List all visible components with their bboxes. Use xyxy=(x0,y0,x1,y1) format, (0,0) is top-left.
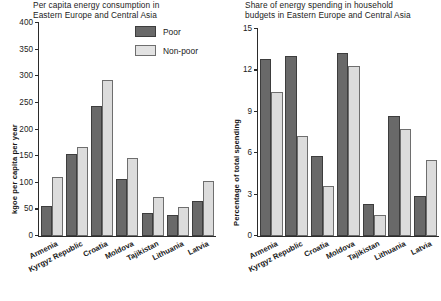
bar-non-poor xyxy=(127,158,138,236)
bar-non-poor xyxy=(203,181,214,235)
legend: Poor Non-poor xyxy=(135,26,198,64)
legend-label-poor: Poor xyxy=(163,27,181,37)
x-axis-labels: ArmeniaKyrgyz RepublicCroatiaMoldovaTaji… xyxy=(257,237,439,297)
bar-non-poor xyxy=(153,197,164,235)
bar-non-poor xyxy=(178,207,189,235)
y-tick-label: 200 xyxy=(19,124,33,133)
bar-group xyxy=(337,28,360,236)
y-tick-label: 300 xyxy=(19,71,33,80)
bar-non-poor xyxy=(374,215,386,236)
bar-group xyxy=(363,28,386,236)
plot-area: 03691215 ArmeniaKyrgyz RepublicCroatiaMo… xyxy=(257,28,439,237)
y-axis-title: kgoe per capita per year xyxy=(10,124,19,214)
legend-item-poor: Poor xyxy=(135,26,198,37)
y-tick-label: 0 xyxy=(28,231,33,240)
bar-non-poor xyxy=(271,92,283,236)
bar-non-poor xyxy=(323,186,335,236)
y-tick-label: 350 xyxy=(19,44,33,53)
legend-swatch-nonpoor-icon xyxy=(135,45,156,56)
y-tick xyxy=(35,102,39,103)
x-axis-label: Latvia xyxy=(409,239,433,257)
x-axis-label: Latvia xyxy=(187,239,211,257)
bar-group xyxy=(388,28,411,236)
y-tick-label: 9 xyxy=(247,106,252,115)
bar-poor xyxy=(414,196,426,236)
bar-poor xyxy=(337,53,349,235)
bar-non-poor xyxy=(400,129,412,235)
y-tick-label: 400 xyxy=(19,18,33,27)
y-tick-label: 50 xyxy=(24,204,33,213)
y-tick xyxy=(254,69,258,70)
chart-panel-energy-spending-share: Share of energy spending in household bu… xyxy=(221,0,441,301)
bar-non-poor xyxy=(348,66,360,236)
y-tick xyxy=(35,235,39,236)
bar-poor xyxy=(311,156,323,236)
bar-group xyxy=(91,22,113,236)
bar-poor xyxy=(66,154,77,236)
bar-series-group xyxy=(258,28,439,236)
chart-title: Share of energy spending in household bu… xyxy=(245,1,441,20)
y-tick xyxy=(35,75,39,76)
y-tick xyxy=(254,235,258,236)
bar-group xyxy=(285,28,308,236)
bar-poor xyxy=(41,206,52,236)
bar-non-poor xyxy=(52,177,63,236)
bar-poor xyxy=(285,56,297,235)
legend-label-nonpoor: Non-poor xyxy=(163,46,198,56)
bar-poor xyxy=(260,59,272,236)
y-tick xyxy=(35,155,39,156)
x-axis-labels: ArmeniaKyrgyz RepublicCroatiaMoldovaTaji… xyxy=(38,237,216,297)
legend-item-nonpoor: Non-poor xyxy=(135,45,198,56)
y-tick xyxy=(35,22,39,23)
bar-non-poor xyxy=(426,160,438,236)
y-tick-label: 100 xyxy=(19,177,33,186)
bar-group xyxy=(414,28,437,236)
y-tick xyxy=(254,194,258,195)
bar-non-poor xyxy=(77,147,88,236)
bar-poor xyxy=(116,179,127,236)
y-tick-label: 12 xyxy=(243,65,252,74)
bar-group xyxy=(311,28,334,236)
y-tick-label: 250 xyxy=(19,97,33,106)
bar-poor xyxy=(192,201,203,236)
bar-poor xyxy=(388,116,400,236)
y-tick xyxy=(35,129,39,130)
bar-poor xyxy=(142,213,153,235)
y-tick-label: 3 xyxy=(247,189,252,198)
figure-root: Per capita energy consumption in Eastern… xyxy=(0,0,441,301)
bar-group xyxy=(41,22,63,236)
bar-poor xyxy=(91,106,102,235)
y-axis-title: Percentage of total spending xyxy=(232,119,241,226)
chart-panel-energy-consumption: Per capita energy consumption in Eastern… xyxy=(0,0,220,301)
y-tick-label: 15 xyxy=(243,24,252,33)
y-tick xyxy=(35,49,39,50)
y-tick xyxy=(254,28,258,29)
chart-title: Per capita energy consumption in Eastern… xyxy=(33,1,218,20)
bar-poor xyxy=(363,204,375,236)
y-tick xyxy=(254,111,258,112)
y-tick-label: 6 xyxy=(247,148,252,157)
legend-swatch-poor-icon xyxy=(135,26,156,37)
y-tick-label: 0 xyxy=(247,231,252,240)
bar-non-poor xyxy=(102,80,113,235)
y-tick xyxy=(35,208,39,209)
bar-group xyxy=(66,22,88,236)
bar-group xyxy=(260,28,283,236)
bar-poor xyxy=(167,215,178,235)
y-tick xyxy=(254,152,258,153)
y-tick-label: 150 xyxy=(19,151,33,160)
bar-non-poor xyxy=(297,136,309,235)
y-tick xyxy=(35,182,39,183)
